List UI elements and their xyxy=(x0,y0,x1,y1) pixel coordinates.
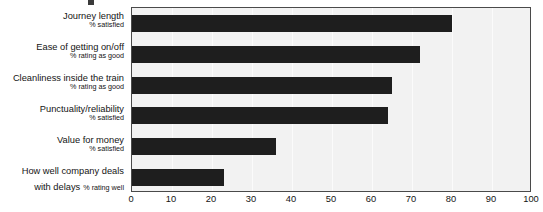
category-label-line2: with delays% rating well xyxy=(0,176,124,193)
category-label-metric: % rating well xyxy=(83,183,124,192)
x-axis-tick: 0 xyxy=(128,194,133,204)
category-label: Ease of getting on/off% rating as good xyxy=(0,42,124,60)
x-axis-tick: 80 xyxy=(446,194,456,204)
cropped-title-remnant xyxy=(88,0,94,5)
gridline xyxy=(492,8,493,191)
bar xyxy=(132,169,224,186)
category-label: Journey length% satisfied xyxy=(0,11,124,29)
bar xyxy=(132,138,276,155)
bar xyxy=(132,77,392,94)
x-axis-tick: 70 xyxy=(406,194,416,204)
x-axis-tick: 20 xyxy=(206,194,216,204)
x-axis-tick: 60 xyxy=(366,194,376,204)
category-label: Cleanliness inside the train% rating as … xyxy=(0,73,124,91)
bar xyxy=(132,107,388,124)
x-axis-tick: 40 xyxy=(286,194,296,204)
bar xyxy=(132,15,452,32)
category-label-metric: % satisfied xyxy=(0,21,124,29)
category-label-text: with delays xyxy=(34,182,80,192)
gridline xyxy=(212,8,213,191)
category-label-metric: % rating as good xyxy=(0,52,124,60)
gridline xyxy=(332,8,333,191)
bar xyxy=(132,46,420,63)
gridline xyxy=(292,8,293,191)
x-axis-tick: 100 xyxy=(523,194,539,204)
gridline xyxy=(252,8,253,191)
category-label-metric: % satisfied xyxy=(0,114,124,122)
plot-area xyxy=(131,7,531,192)
x-axis-tick-labels: 0102030405060708090100 xyxy=(131,192,531,210)
x-axis-tick: 30 xyxy=(246,194,256,204)
gridline xyxy=(372,8,373,191)
x-axis-tick: 90 xyxy=(486,194,496,204)
category-label-metric: % rating as good xyxy=(0,83,124,91)
gridline xyxy=(412,8,413,191)
x-axis-tick: 10 xyxy=(166,194,176,204)
category-label-column: Journey length% satisfiedEase of getting… xyxy=(0,7,128,192)
category-label: How well company dealswith delays% ratin… xyxy=(0,166,124,193)
gridline xyxy=(452,8,453,191)
category-label-metric: % satisfied xyxy=(0,145,124,153)
gridline xyxy=(172,8,173,191)
x-axis-tick: 50 xyxy=(326,194,336,204)
horizontal-bar-chart: Journey length% satisfiedEase of getting… xyxy=(0,0,543,212)
category-label-line1: How well company deals xyxy=(0,166,124,176)
category-label: Value for money% satisfied xyxy=(0,135,124,153)
category-label: Punctuality/reliability% satisfied xyxy=(0,104,124,122)
